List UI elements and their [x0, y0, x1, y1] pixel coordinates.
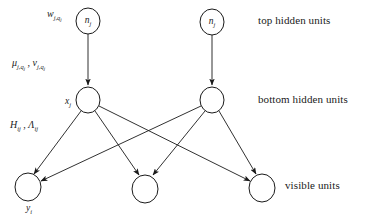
edge-bottom-hidden-right-to-visible-right	[219, 111, 256, 174]
node-visible-right[interactable]	[249, 174, 275, 202]
node-visible-left[interactable]	[15, 173, 41, 201]
node-label-visible-left: yi	[20, 203, 38, 213]
node-bottom-hidden-left[interactable]	[76, 87, 100, 113]
node-visible-middle[interactable]	[132, 175, 158, 203]
node-label-bottom-hidden-left: xj	[60, 96, 76, 106]
layer-caption-bottom-hidden-units: bottom hidden units	[258, 93, 348, 105]
layer-caption-top-hidden-units: top hidden units	[258, 14, 331, 26]
layer-caption-visible-units: visible units	[285, 179, 340, 191]
node-bottom-hidden-right[interactable]	[200, 87, 224, 113]
edge-bottom-hidden-left-to-visible-middle	[95, 111, 139, 175]
node-label-top-hidden-right: nj	[202, 16, 222, 26]
weight-parameter-label: wj,qj	[47, 8, 62, 19]
node-label-top-hidden-left: nj	[78, 15, 98, 25]
mu-nu-parameter-label: μj,qj , νj,qj	[12, 57, 45, 68]
h-lambda-parameter-label: Hij , Λij	[10, 119, 38, 130]
edge-bottom-hidden-right-to-visible-middle	[153, 111, 205, 175]
edge-bottom-hidden-left-to-visible-left	[34, 111, 81, 174]
network-diagram: nj nj xj yi wj,qj μj,qj , νj,qj Hij , Λi…	[0, 0, 367, 220]
